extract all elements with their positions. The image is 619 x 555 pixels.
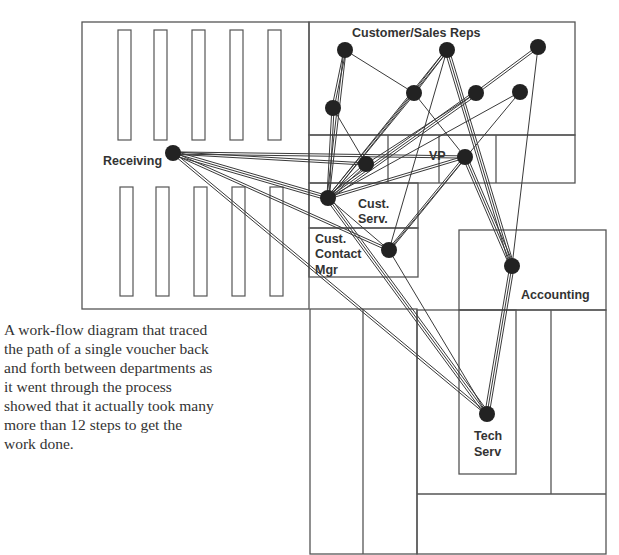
- shelf-rack: [268, 30, 281, 140]
- workflow-diagram: Customer/Sales Reps Receiving VP Cust. S…: [0, 0, 619, 555]
- workflow-node-rep7: [512, 84, 528, 100]
- shelf-rack: [230, 30, 243, 140]
- workflow-edge-accounting-techserv: [487, 266, 512, 414]
- workflow-edge-rep3-accounting: [512, 47, 538, 266]
- shelf-rack: [156, 187, 169, 296]
- workflow-edge-ccm-techserv: [389, 250, 487, 414]
- shelf-rack: [232, 187, 245, 296]
- workflow-edge-vp-ccm: [390, 158, 466, 251]
- workflow-node-rep5: [406, 85, 422, 101]
- workflow-node-techserv: [479, 406, 495, 422]
- workflow-node-rep1: [337, 42, 353, 58]
- label-tech-1: Tech: [474, 429, 502, 443]
- workflow-node-rep6: [468, 85, 484, 101]
- label-tech-2: Serv: [474, 445, 501, 459]
- label-cust-serv-2: Serv.: [358, 212, 388, 226]
- workflow-node-rep2: [439, 42, 455, 58]
- workflow-node-office: [358, 156, 374, 172]
- workflow-edge-rep3-rep6: [475, 46, 537, 92]
- workflow-node-accounting: [504, 258, 520, 274]
- workflow-edge-accounting-techserv: [489, 266, 514, 414]
- shelf-rack: [154, 30, 167, 140]
- shelf-rack: [194, 187, 207, 296]
- shelf-rack: [118, 30, 131, 140]
- workflow-edges: [172, 46, 538, 415]
- label-customer-sales-reps: Customer/Sales Reps: [352, 26, 481, 40]
- workflow-node-receiving: [165, 145, 181, 161]
- workflow-node-custserv: [320, 190, 336, 206]
- workflow-edge-rep1-rep5: [345, 50, 414, 93]
- workflow-edge-vp-accounting: [465, 157, 512, 266]
- label-accounting: Accounting: [521, 288, 590, 302]
- label-cust-serv-1: Cust.: [358, 197, 389, 211]
- shelf-rack: [120, 187, 133, 296]
- workflow-edge-accounting-techserv: [485, 266, 510, 414]
- service-block: [417, 310, 606, 554]
- label-receiving: Receiving: [103, 154, 162, 168]
- workflow-edge-rep1-custserv: [327, 50, 344, 198]
- workflow-node-rep3: [530, 39, 546, 55]
- workflow-node-vp: [457, 149, 473, 165]
- workflow-edge-rep3-rep6: [477, 48, 539, 94]
- label-ccm-2: Contact: [315, 247, 362, 261]
- shelf-rack: [192, 30, 205, 140]
- workflow-node-ccm: [381, 242, 397, 258]
- workflow-edge-vp-accounting: [467, 156, 514, 265]
- workflow-edge-rep7-custserv: [328, 92, 520, 198]
- label-ccm-1: Cust.: [315, 232, 346, 246]
- workflow-edge-rep6-custserv: [329, 95, 477, 200]
- workflow-node-rep4: [325, 100, 341, 116]
- workflow-edge-rep1-custserv: [329, 50, 346, 198]
- figure-caption: A work-flow diagram that traced the path…: [4, 320, 214, 453]
